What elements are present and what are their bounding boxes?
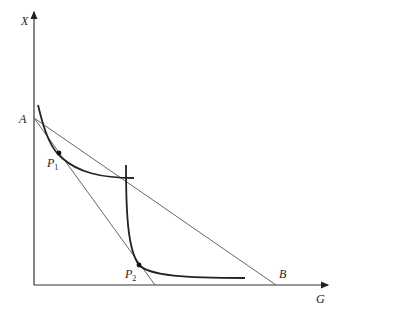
point-p1-label: P1 [47,157,58,172]
point-p1-marker [57,151,62,156]
point-b-label: B [279,268,286,280]
point-p2-marker [137,263,142,268]
p2-subscript: 2 [132,274,136,283]
point-p2-label: P2 [125,268,136,283]
p1-subscript: 1 [54,163,58,172]
indifference-curve-2 [126,165,245,278]
y-axis-label: X [21,15,28,27]
x-axis-label: G [316,293,325,305]
budget-line-ab [34,118,276,285]
point-a-label: A [19,113,26,125]
diagram-canvas [0,0,393,314]
